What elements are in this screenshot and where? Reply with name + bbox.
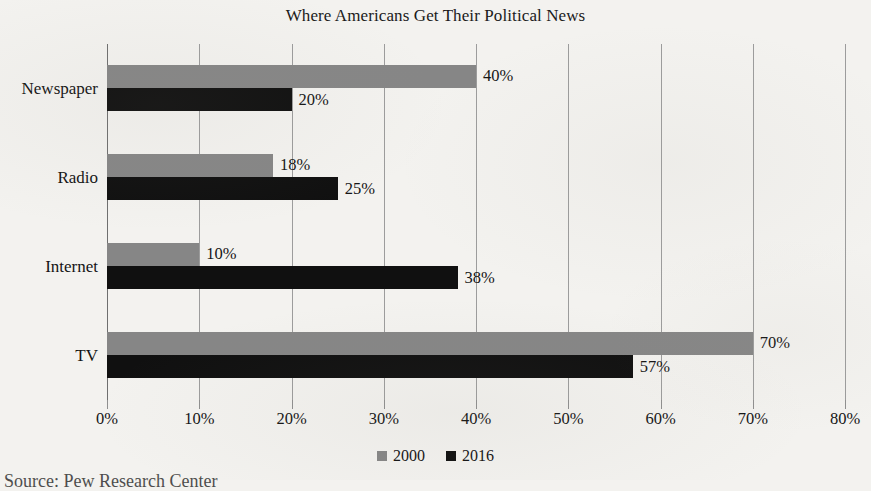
tickmark-80pct xyxy=(845,400,846,409)
plot-area: Newspaper40%20%Radio18%25%Internet10%38%… xyxy=(107,44,845,400)
bar-tv-2016 xyxy=(107,355,633,378)
tickmark-10pct xyxy=(199,400,200,409)
tickmark-40pct xyxy=(476,400,477,409)
legend-item-2000: 2000 xyxy=(377,447,425,465)
source-note: Source: Pew Research Center xyxy=(4,471,217,491)
category-row: TV70%57% xyxy=(107,311,845,400)
bar-value-label: 25% xyxy=(345,179,375,199)
bar-value-label: 10% xyxy=(206,244,236,264)
legend-item-2016: 2016 xyxy=(446,447,494,465)
x-tick-label: 30% xyxy=(369,409,399,429)
category-row: Newspaper40%20% xyxy=(107,44,845,133)
bar-value-label: 40% xyxy=(483,66,513,86)
tickmark-70pct xyxy=(753,400,754,409)
chart-title: Where Americans Get Their Political News xyxy=(0,6,871,26)
bar-tv-2000 xyxy=(107,332,753,355)
category-label-tv: TV xyxy=(75,346,98,366)
bar-value-label: 70% xyxy=(760,333,790,353)
tickmark-50pct xyxy=(568,400,569,409)
x-tick-label: 60% xyxy=(645,409,675,429)
category-label-radio: Radio xyxy=(57,168,98,188)
x-tick-label: 20% xyxy=(276,409,306,429)
legend-swatch-2016 xyxy=(446,451,456,461)
bar-internet-2016 xyxy=(107,266,458,289)
x-tick-label: 50% xyxy=(553,409,583,429)
x-tick-label: 10% xyxy=(184,409,214,429)
bar-radio-2000 xyxy=(107,154,273,177)
category-row: Internet10%38% xyxy=(107,222,845,311)
x-tick-label: 80% xyxy=(830,409,860,429)
x-tick-label: 0% xyxy=(96,409,118,429)
bar-newspaper-2016 xyxy=(107,88,292,111)
chart-legend: 20002016 xyxy=(0,447,871,465)
category-row: Radio18%25% xyxy=(107,133,845,222)
bar-radio-2016 xyxy=(107,177,338,200)
category-label-newspaper: Newspaper xyxy=(22,79,98,99)
bar-value-label: 57% xyxy=(640,357,670,377)
tickmark-0pct xyxy=(107,400,108,409)
legend-swatch-2000 xyxy=(377,451,387,461)
x-tick-label: 70% xyxy=(738,409,768,429)
bar-newspaper-2000 xyxy=(107,65,476,88)
bar-value-label: 18% xyxy=(280,155,310,175)
tickmark-60pct xyxy=(661,400,662,409)
tickmark-30pct xyxy=(384,400,385,409)
bar-value-label: 38% xyxy=(465,268,495,288)
category-label-internet: Internet xyxy=(45,257,98,277)
tickmark-20pct xyxy=(292,400,293,409)
x-tick-label: 40% xyxy=(461,409,491,429)
bar-internet-2000 xyxy=(107,243,199,266)
gridline-80pct xyxy=(845,44,846,400)
legend-label-2016: 2016 xyxy=(462,447,494,465)
legend-label-2000: 2000 xyxy=(393,447,425,465)
bar-value-label: 20% xyxy=(299,90,329,110)
